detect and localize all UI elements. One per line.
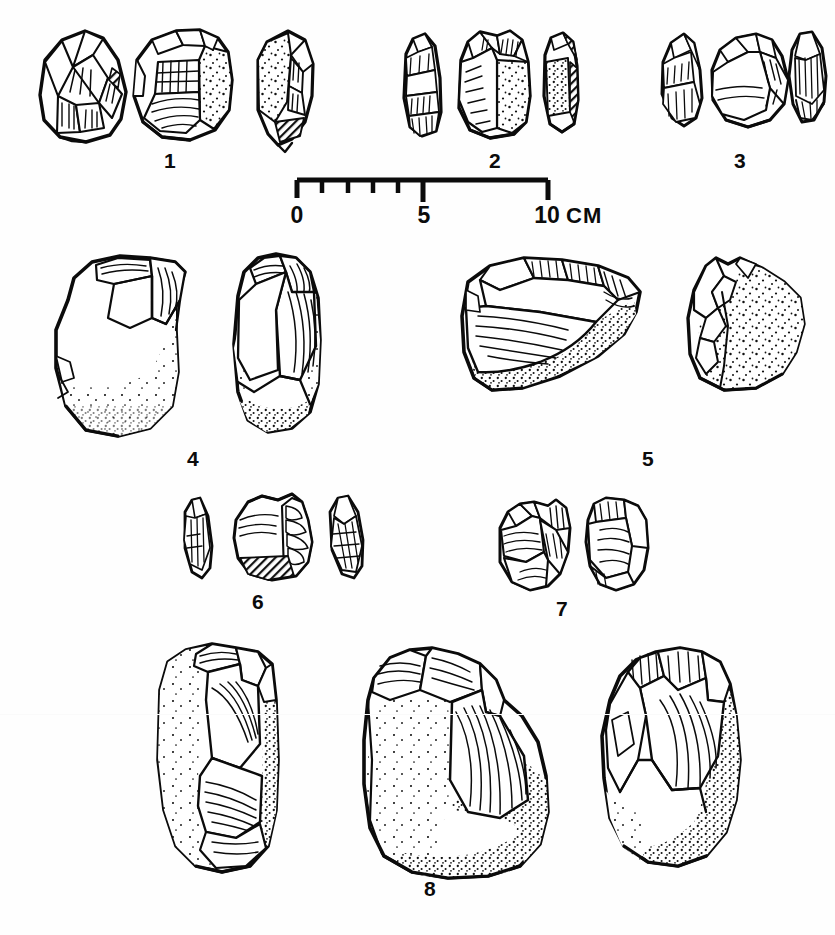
artifact-group-4 — [56, 254, 320, 436]
group-label-1: 1 — [164, 150, 176, 171]
artifact-group-5 — [462, 258, 804, 390]
artifact-6-view-c — [330, 496, 363, 578]
scale-bar-graphic — [297, 180, 548, 202]
artifact-7-view-a — [500, 500, 570, 590]
artifact-group-8 — [158, 644, 740, 878]
artifact-7-view-b — [586, 498, 648, 590]
figure-plate: 1 2 3 4 5 6 7 8 0 5 10 CM — [0, 0, 835, 935]
artifact-group-6 — [184, 494, 363, 580]
artifact-2-view-b — [459, 31, 530, 138]
scale-label-5: 5 — [418, 204, 431, 227]
artifact-3-view-b — [712, 34, 788, 127]
artifact-6-view-a — [184, 498, 212, 578]
artifact-group-1 — [40, 30, 313, 152]
artifact-5-view-b — [688, 258, 804, 390]
group-label-3: 3 — [734, 150, 746, 171]
artifact-1-view-b — [134, 30, 232, 140]
lithic-illustration-canvas — [0, 0, 835, 935]
artifact-8-view-a — [158, 644, 278, 872]
artifact-4-view-a — [56, 256, 185, 436]
group-label-4: 4 — [187, 448, 199, 469]
scale-label-10: 10 — [534, 204, 560, 227]
artifact-6-view-b — [234, 494, 312, 580]
artifact-2-view-c — [544, 33, 578, 132]
artifact-3-view-c — [789, 32, 826, 122]
group-label-6: 6 — [252, 591, 264, 612]
artifact-1-view-c — [258, 31, 313, 152]
artifact-2-view-a — [404, 34, 441, 136]
artifact-group-2 — [404, 31, 578, 138]
group-label-5: 5 — [642, 448, 654, 469]
artifact-group-7 — [500, 498, 648, 590]
artifact-3-view-a — [662, 34, 702, 126]
artifact-group-3 — [662, 32, 826, 127]
group-label-2: 2 — [489, 150, 501, 171]
scan-artifact-line — [0, 714, 835, 715]
group-label-8: 8 — [424, 878, 436, 899]
artifact-8-view-b — [364, 648, 548, 878]
scale-label-0: 0 — [291, 204, 304, 227]
scale-unit-label: CM — [566, 205, 602, 227]
artifact-1-view-a — [40, 31, 126, 142]
artifact-4-view-b — [234, 254, 320, 432]
artifact-8-view-c — [602, 648, 740, 866]
group-label-7: 7 — [556, 598, 568, 619]
artifact-5-view-a — [462, 258, 640, 390]
